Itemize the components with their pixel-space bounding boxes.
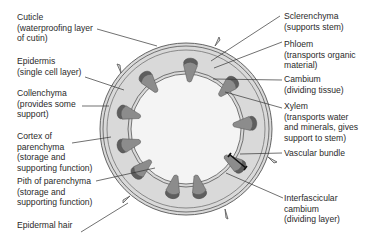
label-line: supporting function) (17, 163, 92, 174)
label-line: Epidermis (17, 56, 81, 67)
label-line: cambium (284, 204, 340, 215)
label-line: Cuticle (17, 12, 93, 23)
label-line: and minerals, gives (284, 122, 358, 133)
label-line: Vascular bundle (284, 148, 345, 159)
label-cuticle: Cuticle (waterproofing layer of cutin) (17, 12, 93, 44)
label-cortex: Cortex of parenchyma (storage and suppor… (17, 131, 92, 173)
label-line: support to stem) (284, 133, 358, 144)
label-line: (dividing tissue) (284, 85, 344, 96)
label-line: (transports water (284, 112, 358, 123)
epidermal-hair-icon (215, 37, 220, 46)
label-line: support) (17, 109, 76, 120)
label-line: Interfascicular (284, 193, 340, 204)
label-line: (storage and (17, 152, 92, 163)
label-line: parenchyma (17, 142, 92, 153)
label-line: supporting function) (17, 197, 92, 208)
label-xylem: Xylem (transports water and minerals, gi… (284, 101, 358, 143)
label-line: Pith of parenchyma (17, 176, 92, 187)
label-line: Sclerenchyma (284, 11, 344, 22)
label-cambium: Cambium (dividing tissue) (284, 74, 344, 95)
label-line: (transports organic (284, 50, 356, 61)
label-line: Epidermal hair (17, 220, 72, 231)
label-epidermis: Epidermis (single cell layer) (17, 56, 81, 77)
label-interfascicular-cambium: Interfascicular cambium (dividing layer) (284, 193, 340, 225)
label-vascular-bundle: Vascular bundle (284, 148, 345, 159)
label-collenchyma: Collenchyma (provides some support) (17, 88, 76, 120)
label-line: Phloem (284, 39, 356, 50)
label-line: (single cell layer) (17, 67, 81, 78)
label-pith: Pith of parenchyma (storage and supporti… (17, 176, 92, 208)
label-line: (waterproofing layer (17, 23, 93, 34)
label-line: material) (284, 60, 356, 71)
epidermal-hair-icon (117, 64, 121, 73)
label-line: (storage and (17, 187, 92, 198)
label-line: Cortex of (17, 131, 92, 142)
label-phloem: Phloem (transports organic material) (284, 39, 356, 71)
label-line: (provides some (17, 99, 76, 110)
label-line: (supports stem) (284, 22, 344, 33)
label-line: of cutin) (17, 33, 93, 44)
label-line: Collenchyma (17, 88, 76, 99)
label-line: Cambium (284, 74, 344, 85)
epidermal-hair-icon (225, 209, 228, 219)
label-line: Xylem (284, 101, 358, 112)
epidermal-hair-icon (268, 157, 277, 163)
label-line: (dividing layer) (284, 214, 340, 225)
label-epidermal-hair: Epidermal hair (17, 220, 72, 231)
epidermal-hair-icon (123, 196, 130, 203)
label-sclerenchyma: Sclerenchyma (supports stem) (284, 11, 344, 32)
